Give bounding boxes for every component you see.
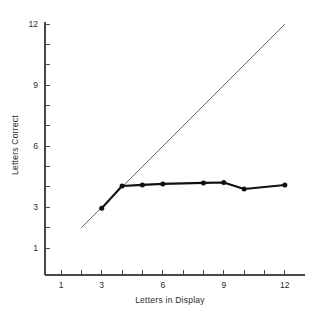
data-point-marker <box>120 183 125 188</box>
x-axis-tick-labels: 136912 <box>59 280 290 290</box>
axes-group <box>45 22 305 275</box>
data-point-marker <box>140 182 145 187</box>
x-axis-tick-marks <box>61 270 285 275</box>
data-point-marker <box>201 180 206 185</box>
data-point-marker <box>99 206 104 211</box>
y-axis-tick-marks <box>45 24 50 248</box>
x-tick-label: 1 <box>59 280 64 290</box>
chart-figure: 136912 136912 Letters in Display Letters… <box>0 0 316 319</box>
y-tick-label: 6 <box>33 141 38 151</box>
line-chart-canvas: 136912 136912 Letters in Display Letters… <box>0 0 316 319</box>
data-point-marker <box>242 186 247 191</box>
y-tick-label: 1 <box>33 243 38 253</box>
data-series-line <box>102 182 285 208</box>
data-point-marker <box>160 181 165 186</box>
y-tick-label: 9 <box>33 80 38 90</box>
x-axis-title: Letters in Display <box>135 295 205 305</box>
x-tick-label: 9 <box>221 280 226 290</box>
y-axis-tick-labels: 136912 <box>29 19 39 253</box>
data-point-marker <box>221 180 226 185</box>
y-axis-title: Letters Correct <box>10 115 20 175</box>
y-tick-label: 12 <box>29 19 39 29</box>
data-point-marker <box>282 182 287 187</box>
x-tick-label: 6 <box>160 280 165 290</box>
x-tick-label: 12 <box>280 280 290 290</box>
data-series-markers <box>99 180 287 211</box>
x-tick-label: 3 <box>99 280 104 290</box>
y-tick-label: 3 <box>33 202 38 212</box>
